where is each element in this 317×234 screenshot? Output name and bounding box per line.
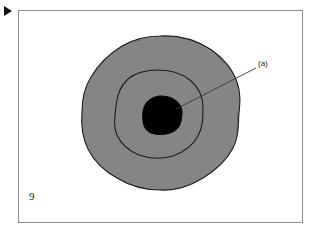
figure-root: 9 (a) [0, 0, 317, 234]
figure-number-label: 9 [29, 191, 35, 202]
figure-frame [18, 10, 303, 223]
callout-a-label: (a) [258, 59, 268, 68]
play-triangle-icon [4, 6, 12, 16]
